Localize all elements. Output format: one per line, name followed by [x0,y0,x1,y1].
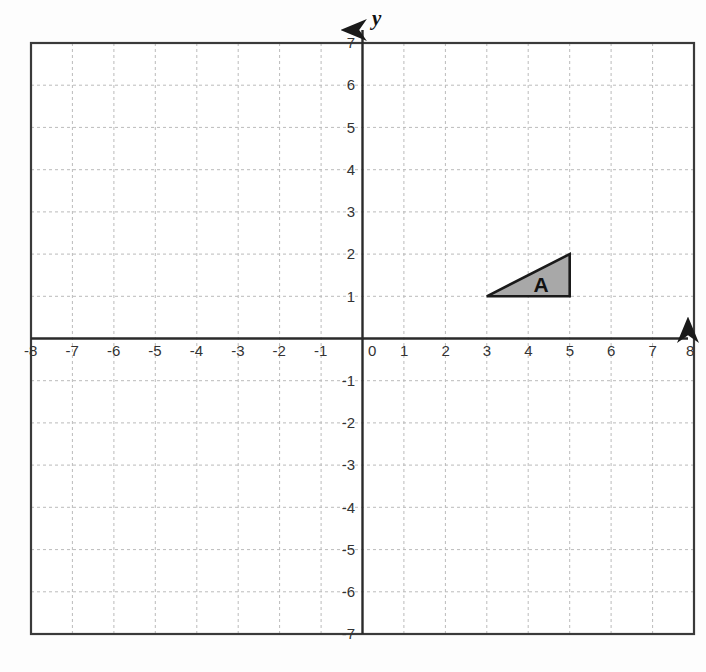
y-tick-label: 5 [347,119,355,136]
x-tick-label: 8 [686,342,694,359]
x-tick-label: -5 [148,342,161,359]
x-tick-label: 7 [649,342,657,359]
y-tick-label: 3 [347,203,355,220]
coordinate-grid-figure: y -8 -7 -6 -5 -4 -3 -2 -1 0 1 2 3 4 5 6 … [0,0,706,672]
x-tick-label: -6 [107,342,120,359]
y-tick-label: 4 [347,161,355,178]
x-tick-label: 1 [400,342,408,359]
y-tick-label: 1 [347,288,355,305]
x-tick-label: 6 [607,342,615,359]
shape-a-label: A [533,273,548,296]
x-tick-label: -1 [314,342,327,359]
x-tick-label: -2 [273,342,286,359]
coordinate-plane-svg: y -8 -7 -6 -5 -4 -3 -2 -1 0 1 2 3 4 5 6 … [0,0,706,672]
x-tick-label: -8 [24,342,37,359]
x-tick-label: -3 [231,342,244,359]
y-tick-label: -3 [342,456,355,473]
x-tick-label: -4 [190,342,203,359]
origin-label: 0 [368,342,376,359]
y-tick-label: 7 [347,34,355,51]
y-tick-label: -1 [342,372,355,389]
y-tick-label: -4 [342,499,355,516]
y-tick-label: -2 [342,414,355,431]
y-tick-label: 6 [347,76,355,93]
x-tick-label: -7 [65,342,78,359]
y-axis-label: y [369,6,382,30]
x-tick-label: 3 [483,342,491,359]
x-tick-label: 2 [441,342,449,359]
x-tick-label: 4 [524,342,532,359]
y-tick-label: 2 [347,245,355,262]
y-tick-label: -5 [342,541,355,558]
x-tick-label: 5 [566,342,574,359]
y-tick-label: -7 [342,625,355,642]
y-tick-label: -6 [342,583,355,600]
